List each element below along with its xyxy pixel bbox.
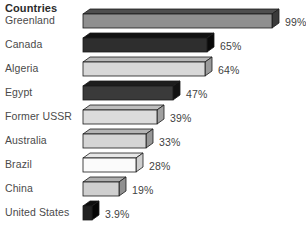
category-label: Greenland bbox=[5, 14, 55, 26]
category-label: Australia bbox=[5, 134, 47, 146]
bar-front-face bbox=[83, 86, 173, 100]
value-label: 99% bbox=[285, 16, 306, 28]
bar-top-face bbox=[83, 129, 153, 134]
bar-former-ussr bbox=[83, 105, 166, 129]
value-label: 39% bbox=[170, 112, 191, 124]
value-label: 3.9% bbox=[105, 208, 129, 220]
plot-area: Greenland99%Canada65%Algeria64%Egypt47%F… bbox=[0, 0, 306, 238]
bar-row: Canada65% bbox=[0, 33, 306, 57]
bar-front-face bbox=[83, 134, 146, 148]
bar-chart: Countries Greenland99%Canada65%Algeria64… bbox=[0, 0, 306, 238]
bar-front-face bbox=[83, 110, 157, 124]
bar-brazil bbox=[83, 153, 145, 177]
bar-top-face bbox=[83, 9, 279, 14]
bar-top-face bbox=[83, 81, 180, 86]
bar-top-face bbox=[83, 153, 143, 158]
category-label: Canada bbox=[5, 38, 42, 50]
bar-united-states bbox=[83, 201, 101, 225]
category-label: Brazil bbox=[5, 158, 32, 170]
bar-front-face bbox=[83, 158, 136, 172]
bar-row: Brazil28% bbox=[0, 153, 306, 177]
bar-row: Australia33% bbox=[0, 129, 306, 153]
bar-row: Former USSR39% bbox=[0, 105, 306, 129]
category-label: United States bbox=[5, 206, 69, 218]
bar-greenland bbox=[83, 9, 281, 33]
bar-top-face bbox=[83, 105, 164, 110]
bar-row: United States3.9% bbox=[0, 201, 306, 225]
bar-top-face bbox=[83, 57, 212, 62]
category-label: Algeria bbox=[5, 62, 38, 74]
bar-row: China19% bbox=[0, 177, 306, 201]
value-label: 64% bbox=[218, 64, 239, 76]
value-label: 47% bbox=[186, 88, 207, 100]
bar-row: Egypt47% bbox=[0, 81, 306, 105]
bar-top-face bbox=[83, 33, 214, 38]
bar-row: Algeria64% bbox=[0, 57, 306, 81]
category-label: China bbox=[5, 182, 33, 194]
bar-front-face bbox=[83, 62, 205, 76]
category-label: Egypt bbox=[5, 86, 32, 98]
bar-algeria bbox=[83, 57, 214, 81]
bar-front-face bbox=[83, 14, 272, 28]
value-label: 28% bbox=[149, 160, 170, 172]
category-label: Former USSR bbox=[5, 110, 72, 122]
bar-egypt bbox=[83, 81, 182, 105]
value-label: 65% bbox=[220, 40, 241, 52]
bar-front-face bbox=[83, 182, 119, 196]
bar-china bbox=[83, 177, 128, 201]
bar-canada bbox=[83, 33, 216, 57]
bar-row: Greenland99% bbox=[0, 9, 306, 33]
value-label: 19% bbox=[132, 184, 153, 196]
value-label: 33% bbox=[159, 136, 180, 148]
bar-front-face bbox=[83, 38, 207, 52]
bar-australia bbox=[83, 129, 155, 153]
bar-front-face bbox=[83, 206, 92, 220]
